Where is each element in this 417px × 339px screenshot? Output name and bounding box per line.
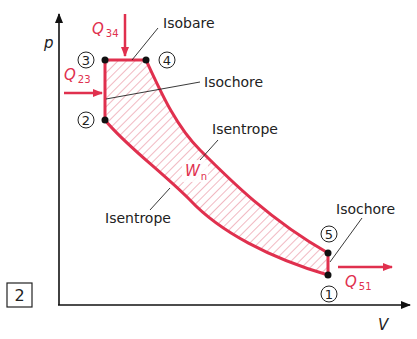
svg-text:4: 4 (163, 53, 171, 68)
axes (58, 14, 410, 305)
q23-label: Q23 (64, 66, 91, 85)
isentrope-45-label: Isentrope (212, 121, 278, 137)
point-2 (102, 117, 109, 124)
isochore-23-label: Isochore (204, 74, 263, 90)
svg-text:3: 3 (82, 53, 90, 68)
svg-text:5: 5 (325, 227, 333, 242)
point-label-3: 3 (78, 52, 94, 68)
q51-label: Q51 (345, 273, 372, 292)
y-axis-label: p (43, 34, 54, 52)
point-5 (325, 250, 332, 257)
point-4 (143, 57, 150, 64)
point-label-4: 4 (159, 52, 175, 68)
point-1 (325, 272, 332, 279)
point-label-2: 2 (78, 112, 94, 128)
figure-number: 2 (7, 283, 32, 307)
isochore-51-label: Isochore (336, 201, 395, 217)
point-label-1: 1 (321, 286, 337, 302)
pv-diagram: p V 3 4 2 5 1 Isobare Isochore I (0, 0, 417, 339)
point-label-5: 5 (321, 226, 337, 242)
svg-text:1: 1 (325, 287, 333, 302)
svg-text:2: 2 (82, 113, 90, 128)
isentrope-12-label: Isentrope (105, 210, 171, 226)
x-axis-label: V (378, 316, 390, 334)
svg-text:2: 2 (14, 286, 24, 305)
isobare-label: Isobare (163, 15, 215, 31)
work-area (105, 60, 328, 275)
q34-label: Q34 (92, 20, 119, 39)
point-3 (102, 57, 109, 64)
